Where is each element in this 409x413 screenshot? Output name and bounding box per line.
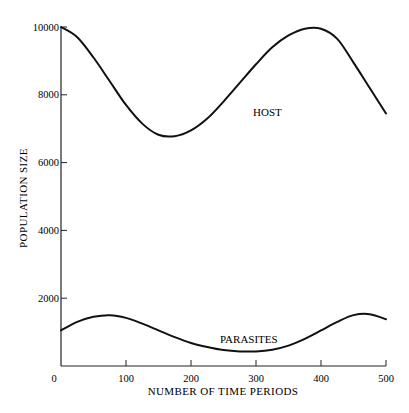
y-tick-label: 8000 xyxy=(38,89,59,100)
host-label: HOST xyxy=(253,106,282,118)
parasites-label: PARASITES xyxy=(220,333,278,345)
y-axis-title: POPULATION SIZE xyxy=(17,148,29,248)
x-tick-label: 200 xyxy=(183,373,199,384)
y-tick-label: 6000 xyxy=(38,157,59,168)
x-tick-label: 100 xyxy=(118,373,134,384)
y-tick-label: 2000 xyxy=(38,293,59,304)
ticks: 0100200300400500200040006000800010000 xyxy=(33,22,394,385)
x-tick-label: 300 xyxy=(248,373,264,384)
x-tick-label: 500 xyxy=(378,373,394,384)
y-tick-label: 4000 xyxy=(38,225,59,236)
x-tick-label: 0 xyxy=(51,373,56,384)
y-tick-label: 10000 xyxy=(33,22,59,33)
x-axis-title: NUMBER OF TIME PERIODS xyxy=(148,385,299,397)
series-lines xyxy=(61,27,386,352)
x-tick-label: 400 xyxy=(313,373,329,384)
population-chart: 0100200300400500200040006000800010000 HO… xyxy=(0,0,409,413)
host-line xyxy=(61,27,386,137)
